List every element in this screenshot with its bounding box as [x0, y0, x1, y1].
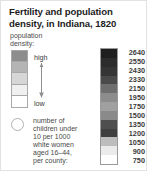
colorbar-tick-label: 2640 [129, 48, 145, 57]
density-swatch-column [11, 50, 28, 108]
colorbar-class-cell [101, 111, 117, 120]
colorbar-class-cell [101, 84, 117, 93]
colorbar-tick-label: 900 [133, 147, 145, 156]
colorbar-class-cell [101, 76, 117, 85]
map-legend-figure: Fertility and population density, in Ind… [0, 0, 147, 171]
colorbar-tick-label: 750 [133, 156, 145, 165]
colorbar-class-cell [101, 155, 117, 164]
colorbar-class-cell [101, 146, 117, 155]
colorbar-tick-label: 1750 [129, 102, 145, 111]
colorbar-tick-label: 1350 [129, 120, 145, 129]
density-legend-label-line-2: density: [10, 40, 80, 48]
fertility-colorbar-tick-labels: 2640255024302330215019501750150013501200… [120, 42, 146, 166]
circle-legend-text-line: children under [33, 125, 93, 133]
density-legend-label: population density: [10, 32, 80, 48]
colorbar-class-cell [101, 49, 117, 58]
colorbar-tick-label: 1500 [129, 111, 145, 120]
circle-legend-text-line: per county: [33, 157, 93, 165]
colorbar-tick-label: 2430 [129, 66, 145, 75]
fertility-colorbar [100, 48, 118, 165]
colorbar-class-cell [101, 58, 117, 67]
colorbar-tick-label: 1950 [129, 93, 145, 102]
colorbar-tick-label: 2550 [129, 57, 145, 66]
colorbar-tick-label: 2150 [129, 84, 145, 93]
density-legend-label-line-1: population [10, 32, 80, 40]
density-swatch [12, 62, 27, 73]
density-low-label: low [34, 99, 45, 108]
colorbar-class-cell [101, 67, 117, 76]
density-high-label: high [34, 53, 48, 62]
circle-legend-text-line: white women [33, 141, 93, 149]
density-swatch [12, 96, 27, 107]
colorbar-tick-label: 1200 [129, 129, 145, 138]
colorbar-class-cell [101, 129, 117, 138]
colorbar-class-cell [101, 137, 117, 146]
colorbar-class-cell [101, 93, 117, 102]
colorbar-class-cell [101, 120, 117, 129]
density-swatch [12, 51, 27, 62]
density-swatch [12, 73, 27, 84]
density-swatch [12, 85, 27, 96]
colorbar-class-cell [101, 102, 117, 111]
circle-legend-text-line: aged 16–44, [33, 149, 93, 157]
colorbar-tick-label: 2330 [129, 75, 145, 84]
circle-legend-text-line: number of [33, 117, 93, 125]
circle-outline-icon [11, 118, 24, 131]
down-arrow-icon [37, 63, 46, 98]
circle-legend-text-line: 10 per 1000 [33, 133, 93, 141]
colorbar-tick-label: 1050 [129, 138, 145, 147]
page-title: Fertility and population density, in Ind… [9, 6, 143, 29]
circle-legend-text: number ofchildren under10 per 1000white … [33, 117, 93, 166]
